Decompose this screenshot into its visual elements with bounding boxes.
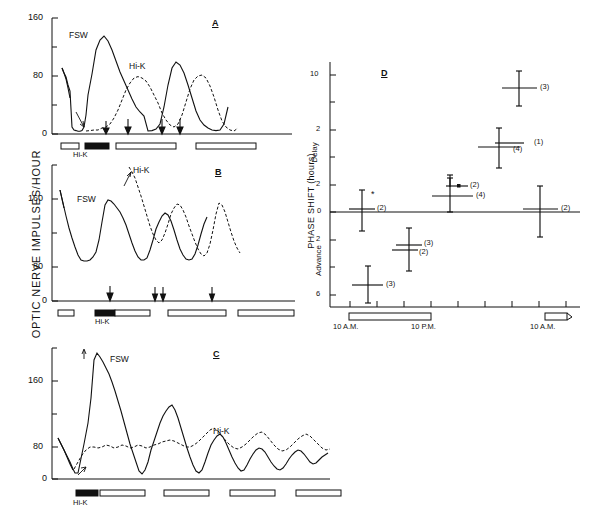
panel-d-n-label-6: (3) (540, 82, 549, 91)
panel-c-fsw-start-arrow (82, 349, 86, 359)
figure-canvas (0, 0, 589, 522)
panel-a-ytick-0: 0 (42, 128, 47, 138)
panel-a-series-fsw (62, 36, 228, 131)
panel-c-series-hik (74, 428, 330, 469)
panel-a-ytick-160: 160 (28, 12, 43, 22)
panel-b-y-ticks (52, 165, 58, 301)
panel-d-xtick-label-3: 10 A.M. (530, 322, 555, 331)
panel-d-n-label-8: (3) (424, 238, 433, 247)
panel-d-point-7 (392, 228, 422, 271)
panel-c-label-hik: Hi-K (213, 426, 230, 436)
panel-c-ytick-0: 0 (42, 473, 47, 483)
panel-letter-a: A (212, 18, 219, 28)
panel-b-bar-label: Hi-K (95, 317, 110, 326)
panel-b-lightbars (58, 310, 294, 316)
panel-a-ytick-80: 80 (33, 70, 43, 80)
panel-d-asterisk: * (371, 189, 375, 199)
panel-letter-d: D (381, 68, 388, 78)
panel-d-region-delay: Delay (310, 133, 319, 173)
panel-d-n-label-10: (3) (386, 279, 395, 288)
panel-a-lightbars (61, 143, 256, 149)
panel-d-xtick-label-2: 10 P.M. (411, 322, 436, 331)
panel-d-lightbars (349, 313, 572, 320)
panel-d-ytick-6u: 2 (316, 124, 320, 133)
panel-c-ytick-80: 80 (33, 441, 43, 451)
panel-d-n-label-7: (2) (561, 203, 570, 212)
panel-b-ytick-0: 0 (42, 295, 47, 305)
panel-a-hik-start-arrow (76, 112, 84, 127)
panel-b-event-arrows (107, 286, 215, 301)
panel-d-y-ticks (330, 75, 336, 295)
panel-a (52, 18, 292, 149)
panel-d-datapoints (349, 71, 558, 303)
panel-a-bar-label: Hi-K (73, 150, 88, 159)
panel-b (52, 165, 295, 316)
panel-c-baseline-segment (58, 438, 73, 470)
panel-b-baseline-segment (60, 190, 64, 208)
panel-a-event-arrows (103, 119, 183, 134)
panel-d-ytick-0: 0 (317, 206, 321, 215)
panel-d-ytick-6l: 6 (316, 289, 320, 298)
panel-d (330, 62, 580, 320)
panel-d-n-label-5: (1) (534, 137, 543, 146)
panel-c-series-fsw (58, 353, 328, 474)
panel-d-n-label-2: (2) (470, 180, 479, 189)
panel-d-xtick-label-1: 10 A.M. (333, 322, 358, 331)
panel-letter-b: B (215, 167, 222, 177)
panel-c-bar-label: Hi-K (73, 498, 88, 507)
panel-d-point-3 (432, 178, 473, 212)
panel-c (52, 348, 341, 496)
panel-d-n-label-4: (4) (513, 144, 522, 153)
panel-b-label-fsw: FSW (77, 194, 96, 204)
panel-b-label-hik: Hi-K (133, 165, 150, 175)
panel-b-hik-start-arrow (124, 172, 131, 186)
panel-d-ytick-10: 10 (310, 69, 318, 78)
panel-d-n-label-1: (2) (377, 203, 386, 212)
panel-a-label-fsw: FSW (69, 30, 88, 40)
panel-d-point-8 (352, 266, 383, 303)
panel-c-label-fsw: FSW (110, 354, 129, 364)
panel-a-baseline-segment (62, 68, 70, 98)
panel-b-series-hik (129, 167, 240, 256)
panel-c-ytick-160: 160 (28, 375, 43, 385)
panel-c-lightbars (76, 490, 341, 496)
panel-d-point-2 (446, 175, 468, 188)
panel-d-point-5 (502, 71, 537, 106)
panel-b-ytick-160: 160 (28, 193, 43, 203)
panel-b-ytick-80: 80 (33, 261, 43, 271)
figure-root: OPTIC NERVE IMPULSES/HOUR A 160 80 0 FSW… (0, 0, 589, 522)
panel-a-y-ticks (52, 18, 58, 134)
panel-d-region-advance: Advance (314, 237, 323, 285)
panel-d-ytick-2l: 2 (316, 234, 320, 243)
y-axis-title: OPTIC NERVE IMPULSES/HOUR (30, 124, 42, 364)
panel-a-label-hik: Hi-K (129, 61, 146, 71)
panel-d-x-ticks (350, 301, 566, 307)
panel-letter-c: C (213, 349, 220, 359)
panel-d-ytick-2u: 2 (316, 179, 320, 188)
panel-c-y-ticks (52, 348, 58, 479)
panel-d-n-label-9: (2) (419, 247, 428, 256)
panel-d-n-label-3: (4) (476, 190, 485, 199)
